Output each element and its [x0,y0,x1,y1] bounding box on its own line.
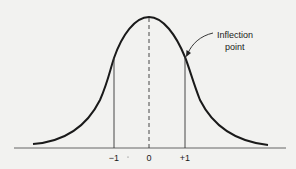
annotation-line1: Inflection [217,30,253,40]
normal-curve-diagram: Inflection point −1 0 +1 [0,0,296,169]
tick-label-minus-one: −1 [109,153,119,163]
dot-mark [127,156,128,157]
tick-label-plus-one: +1 [180,153,190,163]
tick-label-zero: 0 [146,153,151,163]
annotation-line2: point [225,42,245,52]
annotation-arrow [188,33,213,53]
